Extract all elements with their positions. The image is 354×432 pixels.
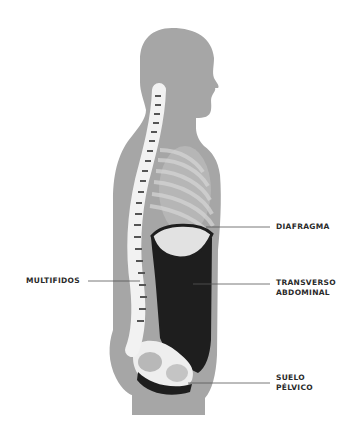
label-suelo-pelvico: SUELO PÉLVICO <box>276 373 313 393</box>
rib-cage-fill <box>159 146 211 234</box>
label-diafragma: DIAFRAGMA <box>276 222 330 232</box>
label-text: DIAFRAGMA <box>276 222 330 231</box>
label-text: TRANSVERSO <box>276 278 336 288</box>
pelvis-hollow-2 <box>166 364 188 382</box>
pelvis-hollow <box>138 352 162 372</box>
body-illustration <box>0 0 354 432</box>
label-transverso-abdominal: TRANSVERSO ABDOMINAL <box>276 278 336 298</box>
label-text: PÉLVICO <box>276 383 313 393</box>
label-text: ABDOMINAL <box>276 288 336 298</box>
label-multifidos: MULTIFIDOS <box>26 276 80 286</box>
core-muscles-diagram: DIAFRAGMA TRANSVERSO ABDOMINAL MULTIFIDO… <box>0 0 354 432</box>
label-text: MULTIFIDOS <box>26 276 80 285</box>
label-text: SUELO <box>276 373 313 383</box>
